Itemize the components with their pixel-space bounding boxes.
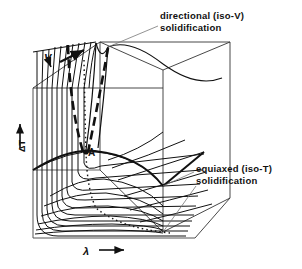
annotation-equiaxed-line1: equiaxed (iso-T) [196, 163, 272, 175]
annotation-equiaxed: equiaxed (iso-T) solidification [196, 163, 272, 187]
valley-dashed-curve-right [88, 48, 108, 152]
figure-canvas: directional (iso-V) solidification equia… [0, 0, 302, 269]
y-axis-label: ΔT [17, 140, 27, 152]
v-axis-label: V [44, 52, 51, 64]
annotation-equiaxed-line2: solidification [196, 175, 272, 187]
cusp-ridge-lines [86, 43, 108, 150]
annotation-directional-line2: solidification [160, 22, 244, 34]
x-axis-label: λ [83, 245, 89, 257]
annotation-directional: directional (iso-V) solidification [160, 10, 244, 34]
annotation-directional-line1: directional (iso-V) [160, 10, 244, 22]
iso-v-contour-family [37, 88, 204, 236]
point-A-label: A [88, 147, 95, 158]
diagram-svg [0, 0, 302, 269]
leader-line-directional [108, 26, 158, 47]
